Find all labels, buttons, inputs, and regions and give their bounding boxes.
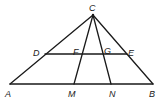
triangle-diagram: C D F G E A M N B: [0, 0, 158, 102]
vertex-c-dot: [92, 14, 94, 16]
label-b: B: [149, 89, 155, 99]
label-d: D: [33, 48, 40, 58]
label-n: N: [109, 89, 116, 99]
segment-ca: [10, 15, 93, 84]
geometry-figure: C D F G E A M N B: [0, 0, 158, 102]
label-e: E: [128, 48, 135, 58]
label-f: F: [73, 47, 79, 57]
label-m: M: [68, 89, 76, 99]
label-a: A: [4, 89, 11, 99]
label-c: C: [89, 3, 96, 13]
label-g: G: [104, 46, 111, 56]
